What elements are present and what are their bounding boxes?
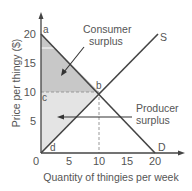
x-axis-arrow-icon	[178, 151, 185, 156]
x-tick-15: 15	[121, 155, 133, 167]
point-a-label: a	[43, 24, 49, 35]
x-tick-5: 5	[66, 155, 72, 167]
x-tick-10: 10	[93, 155, 105, 167]
x-tick-20: 20	[149, 155, 161, 167]
y-tick-5: 5	[30, 115, 36, 127]
x-axis-title: Quantity of thingies per week	[43, 171, 179, 183]
supply-label: S	[160, 31, 167, 43]
producer-surplus-label-line1: Producer	[136, 102, 179, 114]
y-axis-arrow-icon	[39, 12, 44, 19]
producer-surplus-label-line2: surplus	[136, 114, 170, 126]
point-d-label: d	[50, 142, 56, 153]
y-tick-15: 15	[24, 57, 36, 69]
x-tick-0: 0	[33, 155, 39, 167]
point-c-label: c	[42, 92, 47, 103]
y-axis-title: Price per thingy ($)	[10, 39, 22, 128]
consumer-surplus-label-line2: surplus	[89, 35, 123, 47]
y-tick-10: 10	[24, 86, 36, 98]
consumer-surplus-label-line1: Consumer	[83, 23, 132, 35]
supply-demand-chart: 20 15 10 5 0 5 10 15 20 Price per thingy…	[0, 0, 192, 191]
point-b-label: b	[96, 80, 102, 91]
demand-label: D	[158, 141, 166, 153]
y-tick-20: 20	[24, 28, 36, 40]
